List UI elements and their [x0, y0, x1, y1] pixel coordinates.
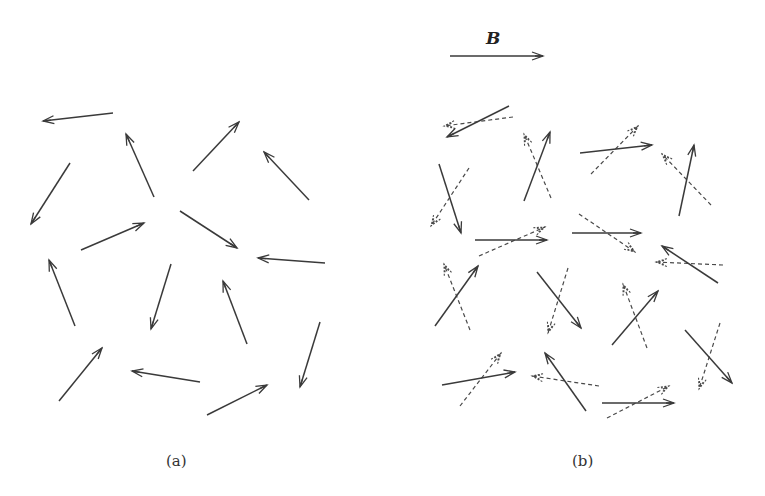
dipole-alignment-figure: [0, 0, 765, 496]
aligned-dipole-arrow: [685, 330, 732, 383]
aligned-dipole-arrow: [447, 106, 509, 137]
aligned-dipole-arrow: [545, 353, 586, 411]
original-dipole-arrow: [699, 323, 720, 389]
dipole-arrow: [193, 122, 239, 171]
dipole-arrow: [43, 113, 113, 121]
caption-a: (a): [166, 452, 187, 470]
dipole-arrow: [132, 371, 200, 382]
panel-b-aligned-dipoles: [431, 106, 732, 418]
aligned-dipole-arrow: [435, 266, 478, 326]
caption-b: (b): [572, 452, 593, 470]
aligned-dipole-arrow: [524, 132, 550, 201]
dipole-arrow: [151, 264, 171, 329]
original-dipole-arrow: [479, 227, 545, 256]
original-dipole-arrow: [548, 268, 568, 333]
dipole-arrow: [59, 348, 102, 401]
panel-a-random-dipoles: [31, 113, 325, 415]
dipole-arrow: [300, 322, 320, 387]
aligned-dipole-arrow: [662, 246, 718, 283]
dipole-arrow: [223, 281, 247, 344]
dipole-arrow: [180, 211, 237, 248]
field-label-b: B: [486, 28, 500, 48]
aligned-dipole-arrow: [537, 272, 581, 328]
dipole-arrow: [126, 134, 154, 197]
dipole-arrow: [81, 223, 144, 250]
dipole-arrow: [207, 385, 267, 415]
dipole-arrow: [264, 152, 309, 200]
dipole-arrow: [31, 163, 70, 224]
dipole-arrow: [49, 260, 75, 326]
dipole-arrow: [258, 258, 325, 263]
aligned-dipole-arrow: [612, 291, 658, 345]
aligned-dipole-arrow: [580, 145, 652, 153]
original-dipole-arrow: [623, 284, 647, 348]
original-dipole-arrow: [607, 386, 669, 418]
aligned-dipole-arrow: [679, 145, 694, 216]
original-dipole-arrow: [460, 353, 501, 406]
original-dipole-arrow: [591, 126, 638, 174]
original-dipole-arrow: [444, 264, 470, 330]
aligned-dipole-arrow: [439, 164, 461, 233]
